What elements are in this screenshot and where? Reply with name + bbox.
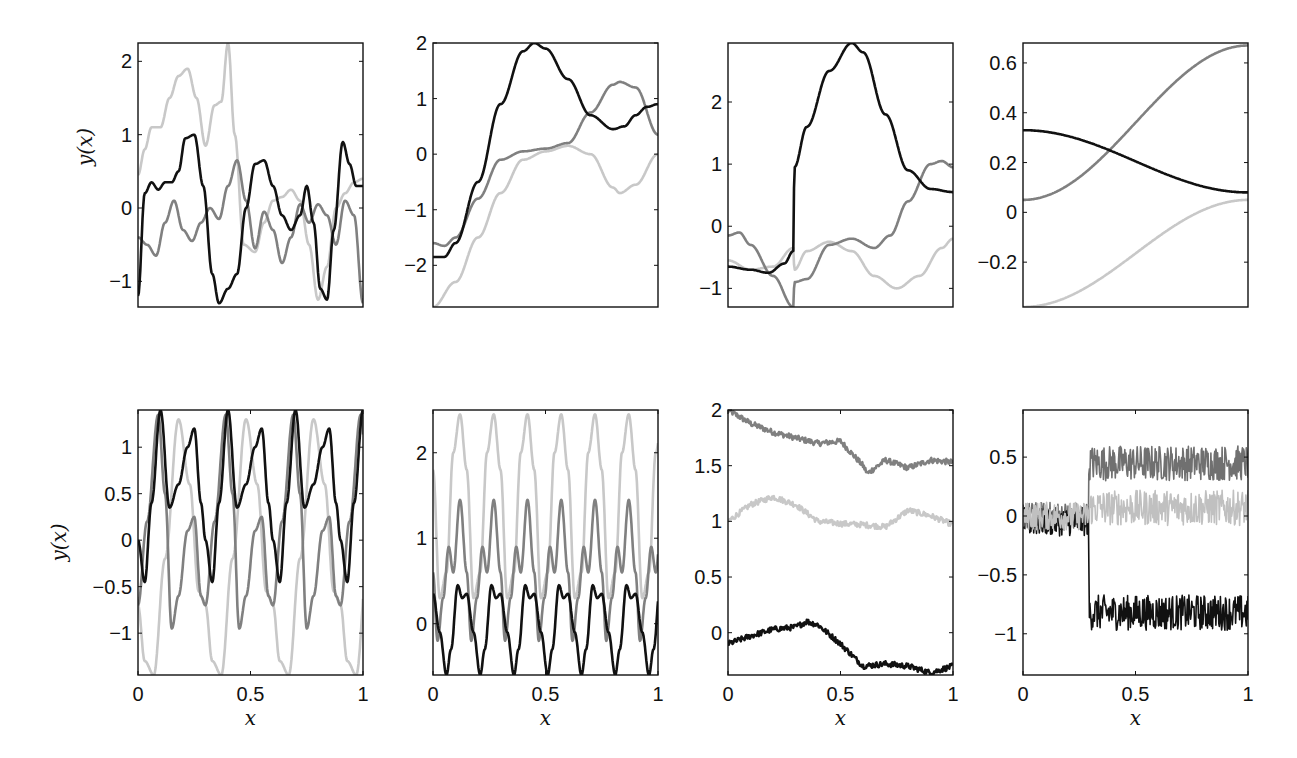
y-tick-label: 0 bbox=[711, 622, 722, 644]
series-light bbox=[138, 43, 363, 300]
x-tick-label: 0 bbox=[722, 683, 733, 705]
y-tick-label: 2 bbox=[711, 91, 722, 113]
series-dark bbox=[728, 620, 953, 676]
y-tick-label: 1 bbox=[711, 510, 722, 532]
x-tick-label: 1 bbox=[652, 683, 663, 705]
x-tick-label: 1 bbox=[1242, 683, 1253, 705]
y-tick-label: 0 bbox=[121, 197, 132, 219]
y-tick-label: 1 bbox=[121, 124, 132, 146]
y-axis-label: y(x) bbox=[47, 523, 71, 562]
series-mid bbox=[728, 409, 953, 473]
y-tick-label: 0 bbox=[1006, 201, 1017, 223]
series-mid bbox=[1023, 46, 1248, 200]
y-tick-label: −0.2 bbox=[978, 251, 1017, 273]
panel-bottom-2: 01200.51x bbox=[416, 410, 664, 730]
x-axis-label: x bbox=[835, 706, 846, 730]
panel-top-1: −1012y(x) bbox=[73, 43, 363, 307]
y-tick-label: −0.5 bbox=[978, 564, 1017, 586]
panel-top-2: −2−1012 bbox=[404, 32, 658, 307]
y-tick-label: 0 bbox=[416, 143, 427, 165]
x-tick-label: 0 bbox=[1017, 683, 1028, 705]
series-light bbox=[1023, 200, 1248, 307]
y-tick-label: −1 bbox=[994, 623, 1017, 645]
x-tick-label: 0.5 bbox=[237, 683, 265, 705]
y-tick-label: 2 bbox=[711, 399, 722, 421]
series-dark bbox=[1023, 130, 1248, 192]
panel-bottom-3: 00.511.5200.51x bbox=[694, 399, 958, 730]
series-mid bbox=[728, 161, 953, 307]
y-tick-label: −1 bbox=[699, 277, 722, 299]
y-tick-label: 0 bbox=[1006, 505, 1017, 527]
y-axis-label: y(x) bbox=[73, 128, 97, 167]
plot-area bbox=[138, 410, 363, 675]
series-dark bbox=[1023, 506, 1248, 630]
series-dark bbox=[433, 43, 658, 257]
y-tick-label: −2 bbox=[404, 254, 427, 276]
plot-area bbox=[1023, 46, 1248, 308]
panel-top-4: −0.200.20.40.6 bbox=[978, 43, 1248, 307]
series-light bbox=[728, 496, 953, 529]
y-tick-label: 2 bbox=[121, 50, 132, 72]
x-tick-label: 0 bbox=[427, 683, 438, 705]
y-tick-label: −0.5 bbox=[93, 576, 132, 598]
y-tick-label: 0.6 bbox=[989, 52, 1017, 74]
x-tick-label: 0 bbox=[132, 683, 143, 705]
x-tick-label: 0.5 bbox=[1122, 683, 1150, 705]
y-tick-label: 2 bbox=[416, 32, 427, 54]
panel-top-3: −1012 bbox=[699, 43, 953, 307]
y-tick-label: 0.4 bbox=[989, 102, 1017, 124]
panel-bottom-1: −1−0.500.5100.51xy(x) bbox=[47, 410, 369, 730]
y-tick-label: 2 bbox=[416, 442, 427, 464]
axes-frame bbox=[1023, 43, 1248, 307]
plot-area bbox=[138, 43, 363, 303]
y-tick-label: −1 bbox=[109, 270, 132, 292]
plot-area bbox=[728, 409, 953, 676]
x-tick-label: 0.5 bbox=[827, 683, 855, 705]
plot-area bbox=[728, 43, 953, 307]
panel-bottom-4: −1−0.500.500.51x bbox=[978, 410, 1254, 730]
y-tick-label: −1 bbox=[109, 622, 132, 644]
series-dark bbox=[728, 43, 953, 273]
figure-grid: −1012y(x) −2−1012 −1012 −0.200.20.40.6 −… bbox=[0, 0, 1297, 758]
plot-area bbox=[433, 414, 658, 675]
y-tick-label: 0.2 bbox=[989, 152, 1017, 174]
axes-frame bbox=[1023, 410, 1248, 675]
y-tick-label: 0.5 bbox=[104, 483, 132, 505]
x-tick-label: 0.5 bbox=[532, 683, 560, 705]
y-tick-label: 0 bbox=[711, 215, 722, 237]
x-axis-label: x bbox=[540, 706, 551, 730]
x-tick-label: 1 bbox=[947, 683, 958, 705]
y-tick-label: 1 bbox=[711, 153, 722, 175]
y-tick-label: 1 bbox=[121, 436, 132, 458]
plot-area bbox=[1023, 446, 1248, 630]
plot-area bbox=[433, 43, 658, 307]
y-tick-label: 1 bbox=[416, 527, 427, 549]
y-tick-label: 1 bbox=[416, 88, 427, 110]
y-tick-label: 0 bbox=[121, 529, 132, 551]
x-axis-label: x bbox=[1130, 706, 1141, 730]
series-mid bbox=[433, 82, 658, 246]
series-light bbox=[433, 146, 658, 307]
y-tick-label: 0.5 bbox=[989, 446, 1017, 468]
y-tick-label: −1 bbox=[404, 199, 427, 221]
y-tick-label: 0 bbox=[416, 613, 427, 635]
y-tick-label: 1.5 bbox=[694, 455, 722, 477]
series-light bbox=[728, 239, 953, 289]
x-tick-label: 1 bbox=[357, 683, 368, 705]
y-tick-label: 0.5 bbox=[694, 566, 722, 588]
x-axis-label: x bbox=[245, 706, 256, 730]
